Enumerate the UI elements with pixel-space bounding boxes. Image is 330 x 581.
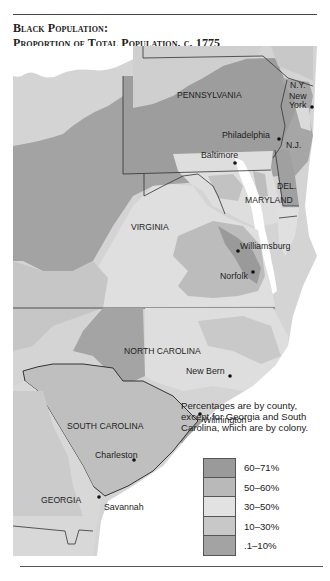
legend: 60–71% 50–60% 30–50% 10–30% .1–10% — [203, 458, 279, 556]
legend-label-30-50: 30–50% — [244, 501, 279, 512]
legend-swatch-0-10 — [203, 536, 236, 556]
label-ny: N.Y. — [290, 80, 306, 90]
city-williamsburg: Williamsburg — [240, 241, 290, 251]
label-georgia: GEORGIA — [41, 495, 81, 505]
label-maryland: MARYLAND — [245, 195, 293, 205]
legend-swatch-30-50 — [203, 497, 236, 517]
label-del: DEL. — [277, 181, 296, 191]
legend-label-0-10: .1–10% — [244, 540, 277, 551]
map-note: Percentages are by county, except for Ge… — [181, 400, 321, 433]
city-marker-philadelphia — [277, 137, 281, 141]
city-marker-new-bern — [228, 374, 232, 378]
city-norfolk: Norfolk — [220, 271, 248, 281]
legend-swatch-50-60 — [203, 478, 236, 498]
label-virginia: VIRGINIA — [131, 222, 169, 232]
label-south-carolina: SOUTH CAROLINA — [67, 421, 144, 431]
city-charleston: Charleston — [95, 450, 138, 460]
legend-row-60-71: 60–71% — [203, 458, 279, 478]
label-pennsylvania: PENNSYLVANIA — [177, 90, 242, 100]
top-rule — [13, 14, 317, 15]
city-baltimore: Baltimore — [201, 150, 238, 160]
legend-row-0-10: .1–10% — [203, 536, 279, 556]
city-new-york-2: York — [289, 100, 307, 110]
legend-label-10-30: 10–30% — [244, 521, 279, 532]
city-marker-norfolk — [251, 270, 255, 274]
legend-row-30-50: 30–50% — [203, 497, 279, 517]
legend-row-50-60: 50–60% — [203, 478, 279, 498]
city-marker-baltimore — [233, 161, 237, 165]
legend-label-60-71: 60–71% — [244, 462, 279, 473]
legend-label-50-60: 50–60% — [244, 482, 279, 493]
label-nj: N.J. — [286, 140, 301, 150]
city-savannah: Savannah — [104, 502, 144, 512]
label-north-carolina: NORTH CAROLINA — [124, 346, 201, 356]
city-marker-savannah — [97, 495, 101, 499]
legend-swatch-10-30 — [203, 517, 236, 537]
city-marker-new-york — [310, 105, 314, 109]
legend-row-10-30: 10–30% — [203, 517, 279, 537]
title-line-1: Black Population: — [13, 21, 220, 36]
city-new-bern: New Bern — [186, 366, 225, 376]
legend-swatch-60-71 — [203, 458, 236, 478]
bottom-rule — [20, 566, 323, 567]
city-philadelphia: Philadelphia — [222, 130, 270, 140]
